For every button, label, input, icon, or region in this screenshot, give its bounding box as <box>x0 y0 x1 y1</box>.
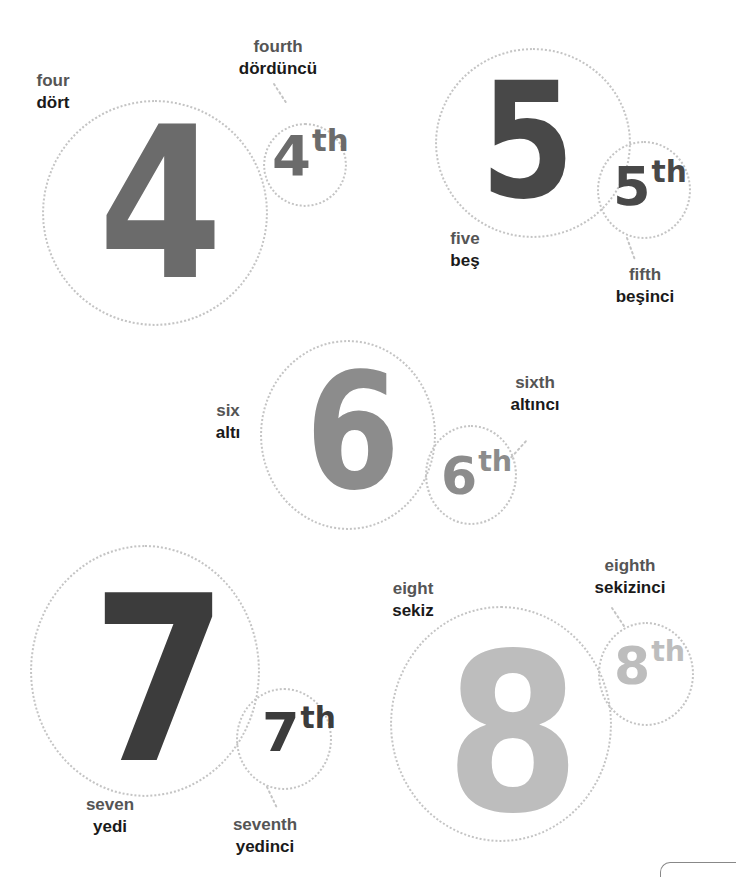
label-sixth: sixth altıncı <box>495 372 575 416</box>
ordinal-suffix: th <box>478 444 512 478</box>
label-seven: seven yedi <box>80 794 140 838</box>
ordinal-suffix: th <box>652 154 687 189</box>
label-tr: yedinci <box>220 836 310 858</box>
label-fourth: fourth dördüncü <box>228 36 328 80</box>
ordinal-sixth: 6th <box>441 450 512 502</box>
label-tr: sekizinci <box>585 577 675 599</box>
ordinal-digit: 8 <box>614 636 650 696</box>
label-tr: dört <box>28 92 78 114</box>
label-en: eight <box>388 578 438 600</box>
label-en: eighth <box>585 555 675 577</box>
ordinal-digit: 4 <box>272 123 311 188</box>
label-en: seventh <box>220 814 310 836</box>
label-en: six <box>208 400 248 422</box>
ordinal-suffix: th <box>651 634 685 668</box>
label-eight: eight sekiz <box>388 578 438 622</box>
ordinal-seventh: 7th <box>262 706 336 760</box>
label-eighth: eighth sekizinci <box>585 555 675 599</box>
label-tr: altı <box>208 422 248 444</box>
label-en: four <box>28 70 78 92</box>
ordinal-eighth: 8th <box>614 640 685 692</box>
label-en: sixth <box>495 372 575 394</box>
digit-five: 5 <box>480 62 574 222</box>
label-seventh: seventh yedinci <box>220 814 310 858</box>
label-en: fifth <box>600 264 690 286</box>
label-en: five <box>440 228 490 250</box>
label-four: four dört <box>28 70 78 114</box>
digit-seven: 7 <box>92 566 203 796</box>
ordinal-suffix: th <box>301 700 336 735</box>
digit-six: 6 <box>306 353 391 513</box>
label-tr: sekiz <box>388 600 438 622</box>
label-tr: yedi <box>80 816 140 838</box>
digit-eight: 8 <box>446 624 556 844</box>
ordinal-digit: 6 <box>441 446 477 506</box>
ordinal-fifth: 5th <box>613 160 687 214</box>
page-corner-decoration <box>660 862 736 877</box>
label-tr: altıncı <box>495 394 575 416</box>
ordinal-suffix: th <box>312 122 349 158</box>
ordinal-digit: 7 <box>262 701 300 764</box>
ordinal-digit: 5 <box>613 155 651 218</box>
label-five: five beş <box>440 228 490 272</box>
digit-four: 4 <box>99 100 218 310</box>
label-en: fourth <box>228 36 328 58</box>
label-tr: beş <box>440 250 490 272</box>
label-en: seven <box>80 794 140 816</box>
label-fifth: fifth beşinci <box>600 264 690 308</box>
label-tr: dördüncü <box>228 58 328 80</box>
label-tr: beşinci <box>600 286 690 308</box>
label-six: six altı <box>208 400 248 444</box>
ordinal-fourth: 4th <box>272 128 349 184</box>
